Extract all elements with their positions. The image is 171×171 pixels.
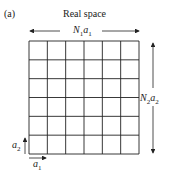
lattice-grid bbox=[29, 41, 139, 154]
height-label: N2a2 bbox=[140, 92, 159, 106]
a2-label: a2 bbox=[12, 139, 21, 153]
width-label: N1a1 bbox=[73, 24, 92, 38]
a1-label: a1 bbox=[33, 158, 42, 171]
